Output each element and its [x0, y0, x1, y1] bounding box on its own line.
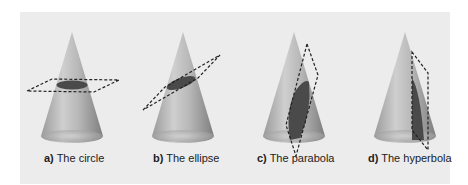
cone-hyperbola: [374, 32, 436, 150]
caption-hyperbola: d) The hyperbola: [368, 152, 452, 164]
caption-parabola: c) The parabola: [257, 152, 334, 164]
cone-circle: [27, 32, 119, 143]
caption-text: The circle: [57, 152, 105, 164]
caption-letter: c): [257, 152, 267, 164]
caption-letter: d): [368, 152, 378, 164]
cone-ellipse: [143, 32, 220, 143]
caption-text: The parabola: [270, 152, 335, 164]
caption-circle: a) The circle: [44, 152, 104, 164]
caption-text: The ellipse: [166, 152, 219, 164]
caption-ellipse: b) The ellipse: [153, 152, 219, 164]
caption-text: The hyperbola: [381, 152, 451, 164]
caption-letter: a): [44, 152, 54, 164]
caption-letter: b): [153, 152, 163, 164]
cone-parabola: [263, 32, 325, 156]
